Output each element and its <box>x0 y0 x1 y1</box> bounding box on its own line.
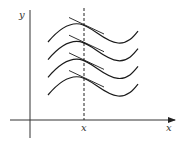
curve-family <box>48 24 138 96</box>
marker-x-label: x <box>81 122 87 133</box>
curve-2 <box>48 41 138 60</box>
diagram-canvas: y x x <box>0 0 187 158</box>
curve-4 <box>48 77 138 96</box>
x-axis-label: x <box>166 122 172 133</box>
tangent-4 <box>69 71 104 88</box>
tangent-2 <box>69 35 104 52</box>
curve-1 <box>48 24 138 43</box>
y-axis-label: y <box>18 9 25 20</box>
tangent-1 <box>69 18 104 35</box>
tangent-3 <box>69 53 104 70</box>
curve-3 <box>48 59 138 78</box>
